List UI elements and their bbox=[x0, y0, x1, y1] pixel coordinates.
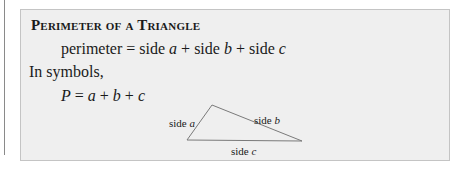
label-side-b: side b bbox=[254, 114, 280, 126]
label-side-c: side c bbox=[231, 145, 256, 157]
margin-rule bbox=[4, 0, 5, 155]
triangle-shape bbox=[187, 105, 302, 141]
triangle-diagram bbox=[21, 10, 451, 162]
label-side-a: side a bbox=[169, 117, 195, 129]
definition-box: Perimeter of a Triangle perimeter = side… bbox=[20, 9, 450, 161]
